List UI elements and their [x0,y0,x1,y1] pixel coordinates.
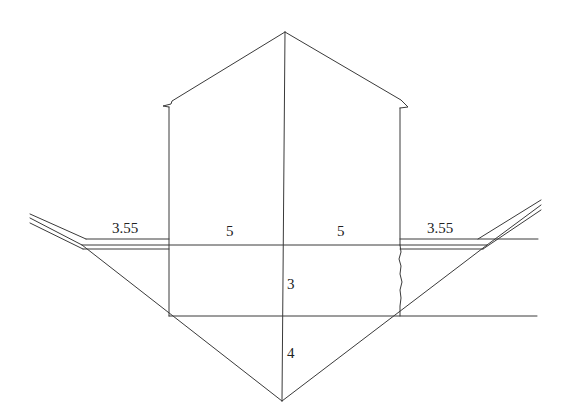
left-bank [30,214,282,401]
label-lower-depth: 4 [287,345,295,361]
right-bank [282,200,541,401]
label-left-berm-width: 3.55 [112,220,138,236]
left-slope-line-3 [30,223,83,249]
right-slope-line-1 [478,200,541,239]
roof-left-slope [163,32,285,107]
left-slope-line-1 [30,214,86,239]
label-left-half-width: 5 [226,223,234,239]
cross-section-diagram: 3.55 5 5 3.55 3 4 [0,0,573,417]
left-slope-line-2 [30,218,82,245]
label-right-berm-width: 3.55 [427,220,453,236]
right-v-slope [282,245,487,401]
label-upper-depth: 3 [287,276,295,292]
house-outline [163,32,408,316]
label-right-half-width: 5 [337,223,345,239]
right-slope-line-3 [483,210,541,249]
left-v-slope [82,245,282,401]
roof-right-slope [285,32,408,108]
center-axis [282,32,285,401]
right-wall-lower [399,245,402,316]
